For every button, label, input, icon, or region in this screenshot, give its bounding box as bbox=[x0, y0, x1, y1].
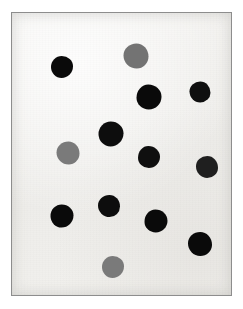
spot-3 bbox=[136, 84, 161, 109]
spot-4 bbox=[189, 81, 210, 102]
spot-ink bbox=[196, 156, 218, 178]
spot-ink bbox=[123, 43, 148, 68]
spot-13 bbox=[102, 256, 124, 278]
spot-ink bbox=[136, 84, 161, 109]
spot-plate bbox=[11, 12, 232, 296]
spot-5 bbox=[98, 121, 123, 146]
spot-ink bbox=[188, 232, 212, 256]
spot-ink bbox=[138, 146, 160, 168]
spot-ink bbox=[144, 209, 167, 232]
figure-root bbox=[0, 0, 243, 309]
spot-8 bbox=[196, 156, 218, 178]
spot-2 bbox=[123, 43, 148, 68]
spot-ink bbox=[189, 81, 210, 102]
spot-ink bbox=[98, 121, 123, 146]
spot-7 bbox=[138, 146, 160, 168]
spot-6 bbox=[56, 141, 79, 164]
spot-10 bbox=[98, 195, 120, 217]
spot-ink bbox=[98, 195, 120, 217]
spot-ink bbox=[102, 256, 124, 278]
spot-1 bbox=[51, 56, 73, 78]
spot-11 bbox=[144, 209, 167, 232]
spot-9 bbox=[50, 204, 73, 227]
spot-12 bbox=[188, 232, 212, 256]
spot-ink bbox=[51, 56, 73, 78]
spot-ink bbox=[56, 141, 79, 164]
spot-ink bbox=[50, 204, 73, 227]
spot-layer bbox=[12, 13, 231, 295]
